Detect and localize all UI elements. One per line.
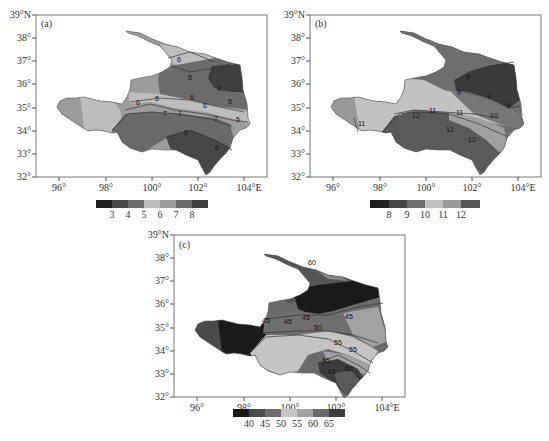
lat-tick-label: 32° [155, 391, 169, 402]
lon-axis: 96° 98° 100° 102° 104°E [326, 177, 536, 193]
lon-tick-label: 98° [99, 182, 113, 193]
lon-tick-label: 102° [189, 182, 208, 193]
contour-label: 60 [345, 365, 353, 372]
lat-axis: 39°N 38° 37° 36° 35° 34° 33° 32° [148, 229, 174, 402]
lat-tick-label: 33° [291, 148, 305, 159]
contour-label: 10 [490, 112, 498, 119]
lat-tick-label: 38° [17, 32, 31, 43]
map-a-zones [30, 20, 270, 180]
colorbar-label: 8 [190, 209, 195, 220]
contour-label: 55 [322, 357, 330, 364]
map-panel-a: 6 5 4 6 5 6 6 5 7 7 7 6 6 5 (a) 39°N 38°… [0, 0, 275, 220]
contour-label: 9 [507, 102, 511, 109]
colorbar-label: 3 [110, 209, 115, 220]
colorbar-b: 8 9 10 11 12 [370, 200, 480, 220]
lat-tick-label: 36° [17, 78, 31, 89]
lat-tick-label: 37° [155, 275, 169, 286]
contour-label: 12 [468, 136, 476, 143]
lat-axis: 39°N 38° 37° 36° 35° 34° 33° 32° [10, 9, 36, 182]
contour-label: 45 [345, 313, 353, 320]
map-c-svg: 45 45 45 45 50 55 55 55 60 60 65 (c) 39°… [138, 223, 413, 441]
lon-tick-label: 102° [463, 182, 482, 193]
lat-tick-label: 35° [291, 102, 305, 113]
lon-tick-label: 100° [417, 182, 436, 193]
colorbar-label: 6 [158, 209, 163, 220]
colorbar-label: 45 [260, 418, 270, 429]
contour-label: 7 [178, 110, 182, 117]
lat-tick-label: 37° [291, 55, 305, 66]
contour-label: 45 [262, 317, 270, 324]
contour-label: 6 [190, 94, 194, 101]
lat-tick-label: 39°N [10, 9, 31, 20]
map-b-svg: 9 9 9 9 10 11 11 11 12 12 12 (b) 39°N 38… [274, 0, 549, 220]
contour-label: 55 [349, 346, 357, 353]
contour-label: 50 [314, 324, 322, 331]
panel-tag-a: (a) [41, 18, 52, 30]
contour-label: 6 [136, 99, 140, 106]
contour-label: 5 [228, 98, 232, 105]
colorbar-label: 4 [126, 209, 131, 220]
lon-tick-label: 96° [326, 182, 340, 193]
colorbar-label: 8 [387, 209, 392, 220]
lat-tick-label: 34° [291, 125, 305, 136]
lat-tick-label: 37° [17, 55, 31, 66]
colorbar-c: 40 45 50 55 60 65 [233, 409, 345, 429]
colorbar-label: 9 [405, 209, 410, 220]
lat-tick-label: 38° [155, 252, 169, 263]
contour-label: 5 [236, 116, 240, 123]
lon-tick-label: 104°E [236, 182, 261, 193]
colorbar-label: 55 [292, 418, 302, 429]
colorbar-label: 12 [456, 209, 466, 220]
contour-label: 5 [155, 95, 159, 102]
lat-tick-label: 39°N [284, 9, 305, 20]
contour-label: 7 [214, 115, 218, 122]
map-panel-c: 45 45 45 45 50 55 55 55 60 60 65 (c) 39°… [138, 223, 413, 441]
colorbar-label: 11 [438, 209, 448, 220]
contour-label: 12 [446, 126, 454, 133]
lon-tick-label: 96° [190, 402, 204, 413]
lon-tick-label: 96° [52, 182, 66, 193]
lat-axis: 39°N 38° 37° 36° 35° 34° 33° 32° [284, 9, 310, 182]
lat-tick-label: 34° [155, 345, 169, 356]
panel-tag-b: (b) [315, 18, 327, 30]
map-b-zones [304, 20, 544, 180]
contour-label: 9 [457, 89, 461, 96]
map-panel-b: 9 9 9 9 10 11 11 11 12 12 12 (b) 39°N 38… [274, 0, 549, 220]
contour-label: 9 [466, 73, 470, 80]
lon-tick-label: 104°E [374, 402, 399, 413]
contour-label: 6 [215, 144, 219, 151]
contour-label: 6 [177, 56, 181, 63]
panel-tag-c: (c) [179, 239, 190, 251]
map-a-svg: 6 5 4 6 5 6 6 5 7 7 7 6 6 5 (a) 39°N 38°… [0, 0, 275, 220]
contour-label: 55 [334, 339, 342, 346]
lat-tick-label: 34° [17, 125, 31, 136]
contour-label: 65 [328, 368, 336, 375]
lon-tick-label: 104°E [510, 182, 535, 193]
contour-label: 4 [217, 85, 221, 92]
colorbar-label: 65 [324, 418, 334, 429]
contour-label: 11 [358, 120, 365, 127]
contour-label: 6 [184, 129, 188, 136]
contour-label: 11 [456, 109, 463, 116]
lon-axis: 96° 98° 100° 102° 104°E [52, 177, 262, 193]
lon-tick-label: 98° [373, 182, 387, 193]
lat-tick-label: 33° [155, 368, 169, 379]
contour-label: 45 [284, 318, 292, 325]
contour-label: 7 [163, 110, 167, 117]
lat-tick-label: 35° [17, 102, 31, 113]
colorbar-label: 40 [244, 418, 254, 429]
colorbar-a: 3 4 5 6 7 8 [96, 200, 208, 220]
contour-label: 5 [188, 74, 192, 81]
colorbar-label: 50 [276, 418, 286, 429]
contour-label: 60 [308, 259, 316, 266]
lat-tick-label: 32° [17, 171, 31, 182]
contour-label: 6 [203, 102, 207, 109]
lat-tick-label: 32° [291, 171, 305, 182]
contour-label: 45 [302, 314, 310, 321]
colorbar-label: 10 [420, 209, 430, 220]
colorbar-label: 5 [142, 209, 147, 220]
colorbar-label: 60 [308, 418, 318, 429]
lon-tick-label: 100° [143, 182, 162, 193]
lat-tick-label: 35° [155, 322, 169, 333]
contour-label: 11 [429, 107, 436, 114]
